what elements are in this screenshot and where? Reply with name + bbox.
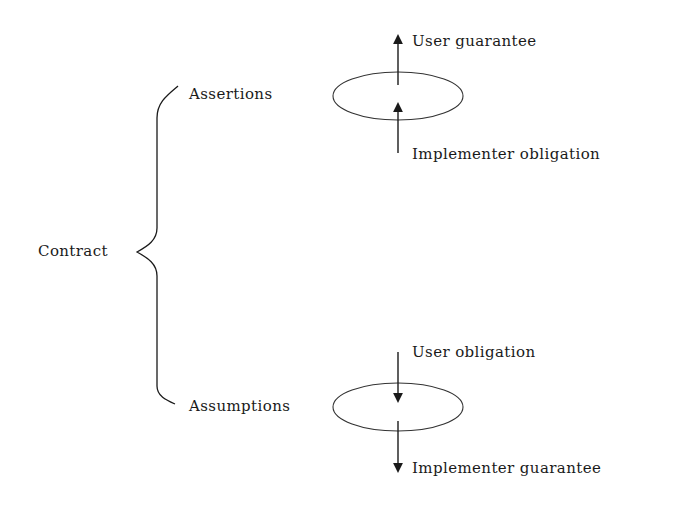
assumptions-label: Assumptions (189, 397, 290, 415)
implementer-guarantee-label: Implementer guarantee (412, 459, 601, 477)
user-guarantee-label: User guarantee (412, 32, 537, 50)
assertions-label: Assertions (189, 85, 273, 103)
implementer-obligation-label: Implementer obligation (412, 145, 600, 163)
curly-brace-icon (137, 86, 178, 404)
contract-label: Contract (38, 242, 108, 260)
user-obligation-label: User obligation (412, 343, 535, 361)
